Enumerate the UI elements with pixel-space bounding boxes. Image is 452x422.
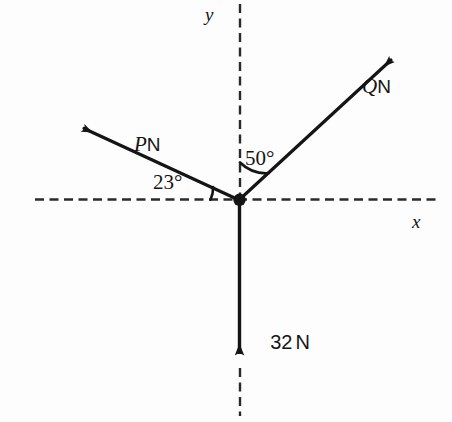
force-diagram: y x PN QN 32N 23° 50°: [0, 0, 452, 422]
force-label-P-symbol: P: [134, 132, 147, 156]
force-label-weight-unit: N: [295, 331, 309, 353]
angle-label-50: 50°: [245, 148, 274, 169]
angle-arc-23: [211, 187, 214, 200]
x-axis-label: x: [412, 212, 420, 231]
force-label-P: PN: [113, 113, 161, 176]
force-label-weight-value: 32: [270, 331, 292, 353]
origin-node-dot: [233, 194, 245, 206]
force-label-Q-symbol: Q: [362, 74, 377, 98]
angle-label-23: 23°: [153, 172, 182, 193]
force-label-P-unit: N: [147, 134, 161, 155]
force-label-Q-unit: N: [377, 76, 391, 97]
force-label-Q: QN: [341, 55, 391, 118]
y-axis-label: y: [205, 5, 213, 24]
force-label-weight: 32N: [248, 312, 310, 372]
